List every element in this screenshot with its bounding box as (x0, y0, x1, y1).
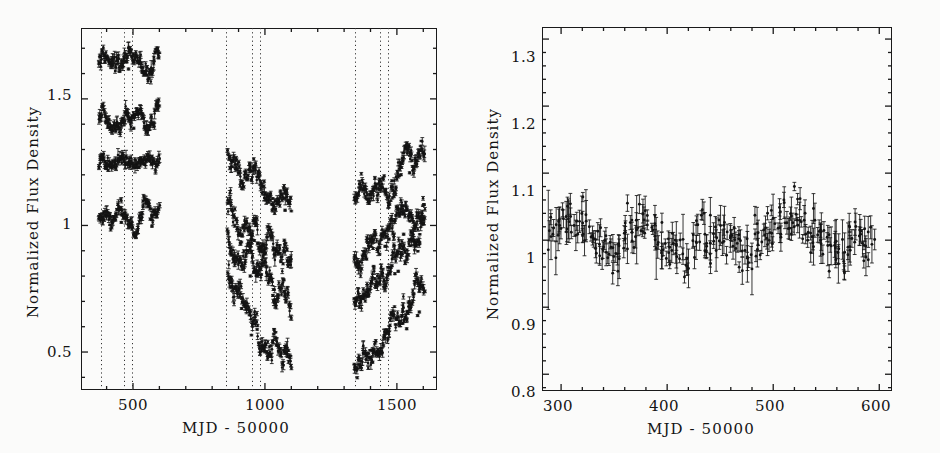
right-plot-frame (542, 27, 892, 391)
left-ytick-label: 0.5 (28, 343, 72, 361)
right-xtick-label: 600 (846, 397, 906, 415)
right-xtick-label: 500 (740, 397, 800, 415)
left-plot-frame (81, 28, 437, 390)
figure-container: 500 1000 1500 0.5 1 1.5 MJD - 50000 Norm… (0, 0, 940, 453)
left-xtick-label: 1500 (367, 396, 427, 414)
left-xtick-label: 500 (103, 396, 163, 414)
left-xtick-label: 1000 (235, 396, 295, 414)
right-xtick-label: 300 (528, 397, 588, 415)
left-panel: 500 1000 1500 0.5 1 1.5 MJD - 50000 Norm… (0, 0, 470, 453)
left-ytick-label: 1.5 (28, 86, 72, 104)
right-panel: 300 400 500 600 0.8 0.9 1 1.1 1.2 1.3 MJ… (470, 0, 940, 453)
right-yaxis-title: Normalized Flux Density (484, 108, 502, 320)
right-xaxis-title: MJD - 50000 (647, 420, 755, 438)
right-ytick-label: 1.3 (488, 48, 536, 66)
right-ytick-label: 0.8 (488, 383, 536, 401)
right-xtick-label: 400 (634, 397, 694, 415)
left-yaxis-title: Normalized Flux Density (24, 106, 42, 318)
left-xaxis-title: MJD - 50000 (182, 419, 290, 437)
